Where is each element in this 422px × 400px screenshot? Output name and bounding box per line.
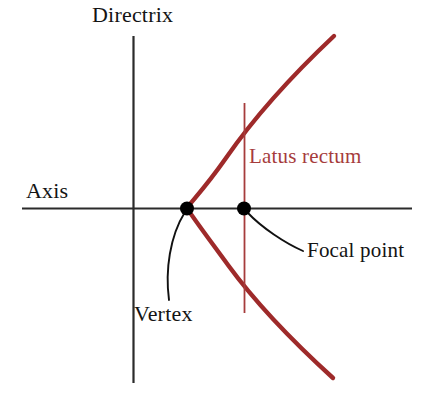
parabola-curve — [187, 36, 334, 378]
focal-point-label: Focal point — [307, 240, 404, 261]
parabola-diagram: Directrix Axis Latus rectum Focal point … — [0, 0, 422, 400]
vertex-label: Vertex — [134, 303, 193, 325]
directrix-label: Directrix — [92, 4, 173, 26]
focal-point-leader-line — [247, 212, 303, 251]
focal-point-marker — [237, 202, 251, 216]
vertex-point-marker — [180, 202, 194, 216]
latus-rectum-label: Latus rectum — [249, 146, 362, 167]
vertex-leader-line — [168, 212, 185, 300]
axis-label: Axis — [26, 180, 68, 202]
